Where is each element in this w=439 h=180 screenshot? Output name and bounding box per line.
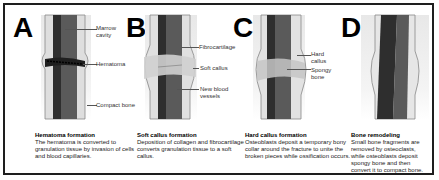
- leader-line: [83, 64, 97, 65]
- diagram-frame: A Marrowcavity Hematoma Compact bone Hem…: [3, 3, 434, 175]
- leader-line: [181, 47, 199, 48]
- leader-line: [297, 55, 311, 56]
- label-spongy-bone: Spongybone: [311, 67, 331, 81]
- label-hard-callus: Hardcallus: [311, 51, 326, 65]
- caption-text: Small bone fragments are removed by oste…: [351, 139, 423, 173]
- panel-letter: A: [13, 14, 32, 42]
- panel-a: A Marrowcavity Hematoma Compact bone Hem…: [5, 5, 113, 175]
- bone-illustration-soft-callus: [140, 15, 200, 125]
- leader-line: [193, 68, 199, 69]
- bone-illustration-hard-callus: [251, 15, 311, 125]
- panel-c: C Hardcallus Spongybone Hard callus form…: [223, 5, 331, 175]
- panel-letter: C: [233, 14, 252, 42]
- caption-bone-remodeling: Bone remodeling Small bone fragments are…: [351, 132, 431, 174]
- bone-illustration-hematoma: [35, 15, 95, 125]
- leader-line: [177, 89, 199, 90]
- panel-letter: D: [341, 14, 360, 42]
- panel-d: D Bone remodeling Small bone fragments a…: [331, 5, 435, 175]
- label-marrow-cavity: Marrowcavity: [96, 25, 116, 39]
- caption-title: Bone remodeling: [351, 132, 431, 139]
- panel-b: B Fibrocartilage Soft callus New bloodve…: [115, 5, 223, 175]
- bone-illustration-remodeling: [365, 15, 425, 125]
- leader-line: [287, 69, 311, 70]
- leader-line: [65, 29, 97, 30]
